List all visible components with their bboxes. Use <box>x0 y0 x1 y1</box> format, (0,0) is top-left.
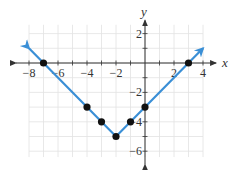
data-point <box>141 104 148 111</box>
x-tick-label: −2 <box>110 66 123 80</box>
absolute-value-graph: −8−6−4−2242−2−4−6xy <box>0 0 237 172</box>
y-axis-label: y <box>139 4 147 19</box>
data-point <box>127 118 134 125</box>
x-tick-label: −8 <box>23 66 36 80</box>
data-point <box>83 104 90 111</box>
x-tick-label: 4 <box>200 66 206 80</box>
data-point <box>112 133 119 140</box>
y-tick-label: −2 <box>129 85 142 99</box>
x-axis-label: x <box>221 55 228 70</box>
data-point <box>185 59 192 66</box>
y-tick-label: 2 <box>136 27 142 41</box>
data-point <box>40 59 47 66</box>
x-tick-label: −4 <box>81 66 94 80</box>
data-point <box>98 118 105 125</box>
y-tick-label: −6 <box>129 144 142 158</box>
